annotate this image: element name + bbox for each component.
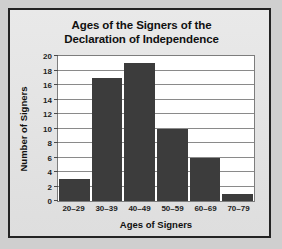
chart-figure: Ages of the Signers of the Declaration o…	[0, 0, 282, 249]
x-axis-tick-label: 40–49	[123, 204, 156, 213]
chart-title-line-1: Ages of the Signers of the	[24, 18, 259, 32]
y-axis-tick-label: 20	[43, 52, 52, 61]
y-axis-tick-label: 6	[48, 153, 52, 162]
bar	[92, 78, 123, 201]
x-axis-title: Ages of Signers	[57, 219, 255, 230]
x-axis-tick-labels: 20–2930–3940–4950–5960–6970–79	[57, 204, 255, 213]
x-axis-tick-label: 50–59	[156, 204, 189, 213]
y-axis-tick-label: 14	[43, 95, 52, 104]
bar	[157, 129, 188, 202]
bar-series	[58, 56, 254, 201]
x-axis-tick-label: 70–79	[222, 204, 255, 213]
bar	[59, 179, 90, 201]
y-axis-tick-label: 2	[48, 182, 52, 191]
y-axis-tick-label: 12	[43, 110, 52, 119]
y-axis-title-text: Number of Signers	[16, 55, 30, 202]
y-axis-tick-label: 10	[43, 124, 52, 133]
figure-panel: Ages of the Signers of the Declaration o…	[10, 10, 269, 236]
x-axis-tick-label: 30–39	[90, 204, 123, 213]
y-axis-tick-label: 4	[48, 168, 52, 177]
bar-slot	[189, 56, 222, 201]
figure-frame: Ages of the Signers of the Declaration o…	[8, 8, 271, 238]
plot-area: 02468101214161820	[57, 55, 255, 202]
chart-title-line-2: Declaration of Independence	[24, 32, 259, 46]
y-axis-title: Number of Signers	[16, 55, 30, 202]
x-axis-tick-label: 20–29	[57, 204, 90, 213]
y-axis-tick-label: 0	[48, 197, 52, 206]
chart-title: Ages of the Signers of the Declaration o…	[24, 18, 259, 46]
bar	[190, 158, 221, 202]
bar-slot	[58, 56, 91, 201]
bar	[124, 63, 155, 201]
y-axis-tick-label: 8	[48, 139, 52, 148]
y-axis-tick-label: 16	[43, 81, 52, 90]
bar-slot	[91, 56, 124, 201]
y-axis-tick-label: 18	[43, 66, 52, 75]
bar	[222, 194, 253, 201]
bar-slot	[156, 56, 189, 201]
bar-slot	[123, 56, 156, 201]
x-axis-tick-label: 60–69	[189, 204, 222, 213]
bar-slot	[221, 56, 254, 201]
